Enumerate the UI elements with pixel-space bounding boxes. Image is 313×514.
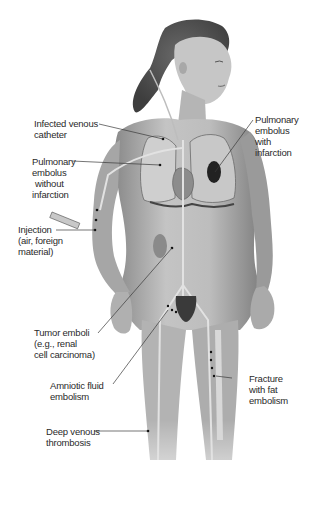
label-pe-with-infarction: Pulmonary embolus with infarction <box>255 114 299 158</box>
label-amniotic-fluid-embolism: Amniotic fluid embolism <box>50 380 104 402</box>
infarct <box>207 161 221 183</box>
label-infected-venous-catheter: Infected venous catheter <box>34 118 98 140</box>
label-injection: Injection (air, foreign material) <box>18 224 63 257</box>
label-pe-without-infarction: Pulmonary embolus without infarction <box>32 156 76 200</box>
label-fracture-fat-embolism: Fracture with fat embolism <box>249 373 288 406</box>
femur <box>218 330 220 440</box>
label-deep-venous-thrombosis: Deep venous thrombosis <box>46 426 100 448</box>
label-tumor-emboli: Tumor emboli (e.g., renal cell carcinoma… <box>34 327 95 360</box>
kidney <box>153 234 167 258</box>
